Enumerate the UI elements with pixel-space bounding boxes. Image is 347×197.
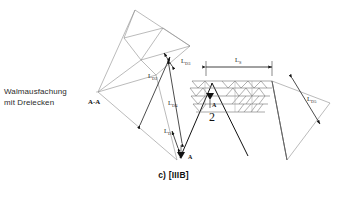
truss-web-r4 bbox=[241, 81, 248, 88]
hip-panel-outline bbox=[98, 10, 190, 92]
truss-web-r3 bbox=[235, 81, 241, 88]
left-roof-plane bbox=[98, 75, 177, 160]
truss-web-r20 bbox=[244, 104, 251, 112]
hip-panel-chord-3 bbox=[124, 38, 141, 60]
truss-web-r16 bbox=[246, 96, 252, 104]
truss-web-r12 bbox=[252, 88, 259, 96]
right-panel-top-edge bbox=[272, 81, 330, 103]
callout-number-2: 2 bbox=[209, 110, 215, 125]
truss-web-r10 bbox=[239, 88, 246, 96]
truss-web-r17 bbox=[252, 96, 259, 104]
truss-web-r14 bbox=[232, 96, 239, 104]
dimension-label-d5: LD5 bbox=[307, 95, 316, 104]
truss-web-r9 bbox=[233, 88, 239, 96]
truss-left-rafter bbox=[180, 86, 211, 158]
truss-web-l7 bbox=[191, 96, 198, 104]
section-arrow-label-top: A bbox=[212, 102, 216, 108]
right-panel-slope bbox=[287, 103, 330, 160]
truss-web-l2 bbox=[198, 81, 205, 88]
side-caption-line-2: mit Dreiecken bbox=[4, 97, 96, 108]
hip-panel-chord-6 bbox=[98, 60, 141, 92]
dimension-hip-upper bbox=[140, 57, 170, 125]
truss-web-l3 bbox=[205, 81, 211, 88]
hip-panel-group bbox=[98, 10, 190, 92]
side-caption: Walmausfachung mit Dreiecken bbox=[4, 86, 96, 108]
section-label-aa: A-A bbox=[88, 98, 100, 105]
truss-web-r7 bbox=[261, 81, 267, 88]
hip-panel-chord-1 bbox=[124, 10, 135, 38]
truss-web-r22 bbox=[257, 104, 263, 112]
section-arrow-bottom bbox=[177, 152, 185, 159]
section-arrow-label-bottom: A bbox=[188, 154, 192, 160]
left-roof-right-edge bbox=[156, 75, 177, 160]
truss-web-r2 bbox=[228, 81, 235, 88]
truss-right-rafter bbox=[212, 83, 248, 156]
truss-web-r5 bbox=[248, 81, 254, 88]
dimension-label-d3: LD3 bbox=[181, 57, 190, 66]
truss-web-r18 bbox=[259, 96, 265, 104]
dimension-label-span: LS bbox=[235, 56, 241, 65]
dim-d2 bbox=[140, 57, 170, 125]
truss-web-r11 bbox=[246, 88, 252, 96]
left-roof-lower-edge bbox=[98, 92, 177, 160]
dimension-label-d4: LD4 bbox=[168, 99, 177, 108]
figure-caption: c) [IIIB] bbox=[0, 170, 347, 180]
dimension-label-d1: LD1 bbox=[164, 127, 173, 136]
right-panel-bottom bbox=[272, 81, 287, 160]
section-marker-bottom bbox=[177, 145, 185, 159]
truss-web-r8 bbox=[226, 88, 233, 96]
truss-web-r1 bbox=[222, 81, 228, 88]
truss-web-r15 bbox=[239, 96, 246, 104]
truss-web-l4 bbox=[190, 88, 196, 96]
dimension-label-d2: LD2 bbox=[148, 72, 157, 81]
figure-canvas: Walmausfachung mit Dreiecken A-A LD2 LD3… bbox=[0, 0, 347, 197]
truss-web-r6 bbox=[254, 81, 261, 88]
side-caption-line-1: Walmausfachung bbox=[4, 86, 96, 97]
truss-web-r19 bbox=[238, 104, 244, 112]
truss-web-l5 bbox=[196, 88, 203, 96]
truss-web-l9 bbox=[193, 104, 200, 112]
truss-web-l1 bbox=[192, 81, 198, 88]
section-arrow-top bbox=[206, 93, 214, 100]
truss-web-r13 bbox=[259, 88, 265, 96]
hip-panel-chord-8 bbox=[163, 28, 190, 46]
central-truss-group bbox=[180, 81, 287, 160]
dim-d3 bbox=[164, 53, 172, 66]
